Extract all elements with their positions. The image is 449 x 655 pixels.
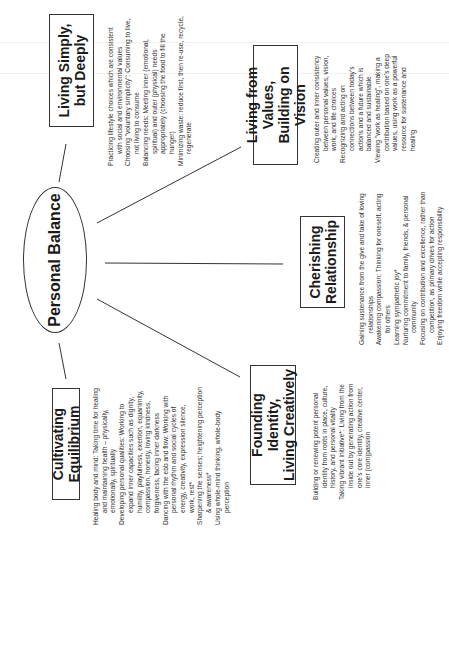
list-item: Gaining sustenance from the give and tak… (358, 185, 375, 345)
list-item: Learning sympathetic joy* (393, 185, 402, 345)
mind-map-canvas: Personal Balance Living Simply, but Deep… (0, 0, 449, 655)
list-item: Nurturing commitment to family, friends,… (402, 185, 419, 345)
branch-title-line2: but Deeply (72, 35, 88, 107)
list-item: Healing body and mind: Taking time for h… (92, 387, 118, 525)
list-item: Awakening compassion: Thinking for onese… (375, 185, 392, 345)
list-item: Building or renewing potent personal ide… (312, 375, 338, 500)
branch-title-line1: Living from Values, (244, 45, 276, 165)
branch-title-line2: Building on Vision (276, 45, 308, 165)
branch-title-living-from-values: Living from Values, Building on Vision (253, 45, 298, 165)
branch-title-line1: Cultivating Equilibrium (50, 388, 82, 500)
list-item: Minimizing waste: reduce first, then re-… (177, 16, 194, 166)
branch-title-founding-identity: Founding Identity, Living Creatively (250, 365, 296, 485)
branch-items-founding-identity: Building or renewing potent personal ide… (312, 375, 367, 500)
list-item: Recognizing and acting on connections be… (339, 50, 374, 163)
list-item: Creating outer and inner consistency bet… (313, 50, 339, 163)
list-item: Practicing lifestyle choices which are c… (107, 16, 124, 166)
connector-founding-identity (97, 299, 240, 377)
list-item: Dancing with the ebb and flow: Working w… (162, 387, 197, 525)
branch-title-cherishing-relationship: Cherishing Relationship (300, 216, 345, 308)
list-item: Focusing on contribution and excellence,… (419, 185, 436, 345)
branch-title-line1: Cherishing (307, 225, 323, 298)
connector-cherishing (105, 263, 283, 264)
list-item: Balancing needs: Meeting inner (emotiona… (142, 16, 177, 166)
branch-title-living-simply: Living Simply, but Deeply (49, 14, 94, 127)
branch-items-living-simply: Practicing lifestyle choices which are c… (107, 16, 203, 166)
list-item: Sharpening the senses; heightening perce… (196, 387, 213, 525)
branch-title-line2: Relationship (323, 220, 339, 304)
list-item: Viewing "work as healing", making a cont… (374, 50, 418, 163)
branch-items-cherishing-relationship: Gaining sustenance from the give and tak… (358, 185, 436, 345)
branch-items-living-from-values: Creating outer and inner consistency bet… (313, 50, 413, 163)
branch-title-line2: Living Creatively (281, 369, 297, 481)
list-item: Choosing "voluntary simplicity": Consumi… (124, 16, 141, 166)
list-item: Enjoying freedom while accepting respons… (436, 185, 445, 345)
list-item: Developing personal qualities: Working t… (118, 387, 162, 525)
branch-items-cultivating-equilibrium: Healing body and mind: Taking time for h… (92, 387, 227, 525)
center-node-label: Personal Balance (44, 190, 66, 330)
list-item: Using whole-mind thinking, whole-body pe… (214, 387, 231, 525)
connector-cultivating (59, 343, 66, 379)
list-item: Taking vibrant initiative*: Living from … (338, 375, 373, 500)
branch-title-line1: Founding Identity, (249, 365, 281, 485)
branch-title-line1: Living Simply, (56, 24, 72, 118)
connector-living-simply (59, 144, 66, 182)
branch-title-cultivating-equilibrium: Cultivating Equilibrium (52, 388, 80, 500)
